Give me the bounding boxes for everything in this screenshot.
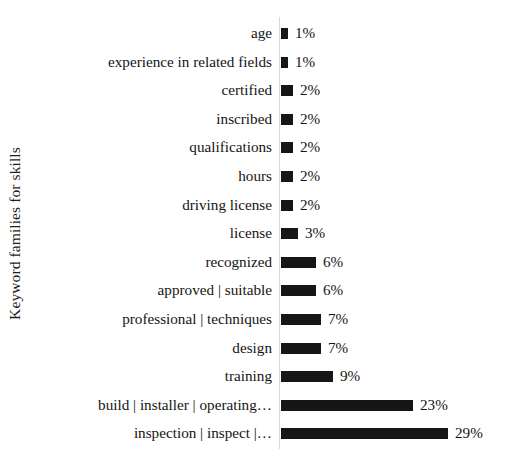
bar-row: professional | techniques7% (0, 307, 518, 331)
category-label: license (230, 221, 272, 245)
bar-and-value: 2% (281, 107, 320, 131)
bar-value-label: 1% (288, 50, 315, 74)
bar-value-label: 2% (293, 164, 320, 188)
bar-value-label: 1% (288, 21, 315, 45)
bar (281, 371, 333, 382)
category-label: hours (238, 164, 272, 188)
bar-and-value: 23% (281, 393, 448, 417)
bar-row: age1% (0, 21, 518, 45)
bar (281, 57, 288, 68)
bar (281, 228, 298, 239)
bar-and-value: 3% (281, 221, 325, 245)
category-label: build | installer | operating… (98, 393, 272, 417)
bar-row: qualifications2% (0, 135, 518, 159)
category-label: design (232, 336, 272, 360)
bar (281, 314, 321, 325)
bar-and-value: 6% (281, 278, 343, 302)
bar-row: license3% (0, 221, 518, 245)
bar (281, 171, 293, 182)
bar-row: build | installer | operating…23% (0, 393, 518, 417)
category-label: inscribed (216, 107, 272, 131)
bar-and-value: 1% (281, 50, 315, 74)
category-label: driving license (182, 193, 272, 217)
bar-and-value: 6% (281, 250, 343, 274)
bar-value-label: 7% (321, 336, 348, 360)
bar-value-label: 6% (316, 278, 343, 302)
bar-value-label: 2% (293, 78, 320, 102)
bar (281, 142, 293, 153)
category-label: training (225, 364, 272, 388)
category-label: professional | techniques (122, 307, 272, 331)
bar-value-label: 9% (333, 364, 360, 388)
category-label: approved | suitable (158, 278, 272, 302)
bar-and-value: 2% (281, 164, 320, 188)
bar-value-label: 2% (293, 107, 320, 131)
bar-and-value: 2% (281, 78, 320, 102)
bar-row: recognized6% (0, 250, 518, 274)
category-label: age (251, 21, 272, 45)
bar-and-value: 2% (281, 135, 320, 159)
bar (281, 200, 293, 211)
bar-row: training9% (0, 364, 518, 388)
bar-value-label: 3% (298, 221, 325, 245)
bar-chart: Keyword families for skills age1%experie… (0, 0, 518, 467)
category-label: inspection | inspect |… (134, 421, 272, 445)
bar-and-value: 29% (281, 421, 483, 445)
bar-and-value: 1% (281, 21, 315, 45)
bar-row: inspection | inspect |…29% (0, 421, 518, 445)
bar (281, 85, 293, 96)
bar-row: driving license2% (0, 193, 518, 217)
bar-value-label: 29% (448, 421, 483, 445)
bar-row: inscribed2% (0, 107, 518, 131)
bar-and-value: 7% (281, 336, 348, 360)
bar (281, 400, 413, 411)
bar-value-label: 2% (293, 193, 320, 217)
category-label: qualifications (189, 135, 272, 159)
bar (281, 28, 288, 39)
bar-value-label: 6% (316, 250, 343, 274)
bar-row: hours2% (0, 164, 518, 188)
bar (281, 285, 316, 296)
bar-row: design7% (0, 336, 518, 360)
bar-row: experience in related fields1% (0, 50, 518, 74)
bar-row: approved | suitable6% (0, 278, 518, 302)
category-label: experience in related fields (108, 50, 272, 74)
bar (281, 114, 293, 125)
category-label: certified (221, 78, 272, 102)
bar-value-label: 23% (413, 393, 448, 417)
bar-value-label: 2% (293, 135, 320, 159)
bar-and-value: 7% (281, 307, 348, 331)
category-label: recognized (205, 250, 272, 274)
bar (281, 343, 321, 354)
bar-row: certified2% (0, 78, 518, 102)
bar-and-value: 2% (281, 193, 320, 217)
bar (281, 257, 316, 268)
plot-area: age1%experience in related fields1%certi… (0, 0, 518, 467)
bar-and-value: 9% (281, 364, 360, 388)
bar-value-label: 7% (321, 307, 348, 331)
bar (281, 428, 448, 439)
